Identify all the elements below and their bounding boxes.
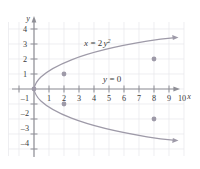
equation-label: x= 2y2 [83, 38, 111, 48]
y-zero-label-rest: = 0 [110, 74, 122, 84]
x-tick-label: 4 [92, 94, 96, 103]
x-axis-arrow [173, 87, 180, 92]
x-axis-label: x [186, 92, 191, 101]
y-tick-label: –3 [20, 124, 29, 133]
x-tick-label: 6 [122, 94, 126, 103]
y-tick-label: 3 [23, 40, 27, 49]
x-tick-label: 7 [137, 94, 141, 103]
curve-upper-arrow [172, 35, 178, 40]
equation-label-eq: = 2 [91, 38, 103, 48]
y-tick-label: –2 [20, 109, 29, 118]
x-tick-label: 5 [107, 94, 111, 103]
x-tick-labels: 1 2 3 4 5 6 7 8 9 10 [47, 94, 186, 103]
x-tick-label: 10 [178, 94, 186, 103]
point-2-1 [62, 72, 67, 77]
x-tick-label: 8 [152, 94, 156, 103]
x-tick-label: 1 [47, 94, 51, 103]
graph-figure: 1 2 3 4 5 6 7 8 9 10 4 3 2 1 –1 –2 –3 –4… [0, 0, 200, 169]
x-tick-label: 9 [167, 94, 171, 103]
point-vertex [32, 87, 37, 92]
y-axis-label: y [25, 14, 30, 23]
svg-text:x= 2y2: x= 2y2 [83, 38, 111, 48]
point-8-neg2 [152, 117, 157, 122]
y-zero-label-var: y [102, 74, 107, 84]
y-tick-label: 4 [23, 25, 27, 34]
x-tick-label: 3 [77, 94, 81, 103]
y-axis-arrow [32, 16, 37, 22]
equation-label-exponent: 2 [108, 38, 111, 44]
y-tick-label: –1 [20, 94, 29, 103]
y-tick-label: 2 [23, 55, 27, 64]
y-tick-labels: 4 3 2 1 –1 –2 –3 –4 [20, 25, 29, 148]
curve-lower-arrow [172, 138, 178, 143]
y-tick-label: –4 [20, 139, 29, 148]
svg-text:y= 0: y= 0 [102, 74, 122, 84]
y-zero-label: y= 0 [102, 74, 122, 84]
equation-label-x: x [83, 38, 88, 48]
coordinate-plane: 1 2 3 4 5 6 7 8 9 10 4 3 2 1 –1 –2 –3 –4… [0, 0, 200, 169]
point-8-2 [152, 57, 157, 62]
x-tick-label: 2 [62, 94, 66, 103]
y-tick-label: 1 [23, 70, 27, 79]
